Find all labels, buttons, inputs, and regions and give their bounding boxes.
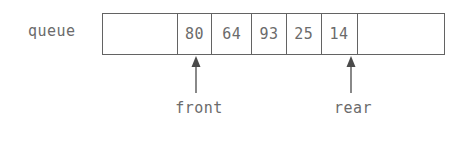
- queue-cell-4: 25: [287, 14, 322, 54]
- queue-cell-5: 14: [322, 14, 358, 54]
- rear-pointer-label: rear: [334, 99, 372, 117]
- queue-cell-0: [103, 14, 178, 54]
- queue-array-box: 80 64 93 25 14: [102, 13, 445, 55]
- front-pointer-label: front: [175, 99, 223, 117]
- queue-diagram: queue 80 64 93 25 14 front rear: [0, 0, 472, 143]
- front-arrow-icon: [192, 56, 201, 93]
- queue-cell-3: 93: [252, 14, 287, 54]
- queue-cell-2: 64: [212, 14, 252, 54]
- rear-arrow-icon: [347, 56, 356, 93]
- queue-label: queue: [28, 22, 94, 40]
- queue-cell-6: [358, 14, 444, 54]
- queue-cell-1: 80: [178, 14, 213, 54]
